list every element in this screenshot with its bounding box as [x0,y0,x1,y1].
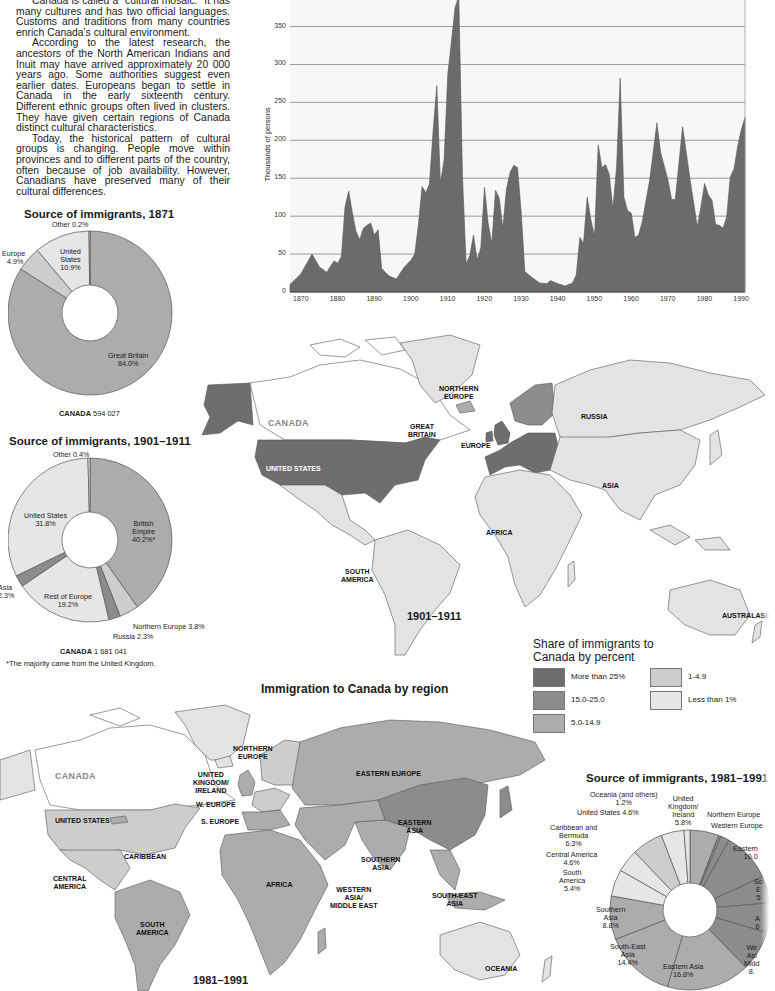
pie-1901-label-rest-of-europe: Rest of Europe 19.2% [44,593,92,609]
map-1981-1991 [0,700,560,991]
map1981-uk-ireland [238,770,255,796]
map1981-label-southern-asia: SOUTHERNASIA [361,856,400,872]
y-tick-label: 0 [282,287,286,294]
map1901-period: 1901–1911 [407,610,461,622]
map1901-australasia [668,580,750,635]
map1901-label-great-britain: GREATBRITAIN [408,423,436,439]
map1981-label-africa: AFRICA [266,881,292,889]
pie-1871-label-other: Other 0.2% [52,221,88,229]
map1981-label-south-america: SOUTHAMERICA [136,921,169,937]
x-tick-label: 1910 [440,295,456,302]
intro-text: Canada is called a "cultural mosaic." It… [16,0,230,197]
y-tick-label: 200 [274,135,286,142]
x-tick-label: 1940 [550,295,566,302]
map1981-label-canada: CANADA [55,771,96,781]
map1901-label-canada: CANADA [268,418,309,428]
pie-1981-label-southern-asia: SouthernAsia8.8% [596,906,625,930]
legend-label: 1-4.9 [688,672,706,681]
x-tick-label: 1920 [476,295,492,302]
map1981-south-east-asia [430,850,460,890]
x-tick-label: 1970 [660,295,676,302]
x-tick-label: 1990 [733,295,749,302]
intro-paragraph-1: Canada is called a "cultural mosaic." It… [16,0,230,38]
legend-label: Less than 1% [688,695,736,704]
pie-1871-label-europe: Europe 4.9% [2,250,25,266]
legend-label: 15.0-25.0 [571,695,605,704]
x-tick-label: 1870 [293,295,309,302]
map1981-label-uk-ireland: UNITEDKINGDOM/IRELAND [193,771,229,795]
y-tick-label: 150 [274,173,286,180]
pie-1981-label-africa: A6 [755,915,760,931]
x-tick-label: 1930 [513,295,529,302]
y-tick-label: 300 [274,59,286,66]
area-chart-svg [250,0,750,310]
pie-1901-label-asia: Asia 2.3% [0,584,14,600]
map-1901-1911 [150,325,775,660]
pie-1901-label-russia: Russia 2.3% [113,633,153,641]
page-edge-fade [761,600,775,991]
map1901-russia [552,360,765,440]
map1981-label-eastern-europe: EASTERN EUROPE [356,770,421,778]
pie-1871-label-gb: Great Britain 84.0% [108,352,148,368]
x-tick-label: 1900 [403,295,419,302]
pie-1981-label-uk: UnitedKingdom/Ireland5.8% [668,795,698,827]
x-tick-label: 1890 [366,295,382,302]
pie-1871-label-us: United States 10.9% [60,248,81,272]
pie-1981-label-eastern-europe: Eastern10.0 [733,845,758,861]
x-tick-label: 1980 [697,295,713,302]
legend-label: More than 25% [571,672,625,681]
map1901-label-northern-europe: NORTHERNEUROPE [439,385,479,401]
intro-paragraph-3: Today, the historical pattern of cultura… [16,134,230,198]
map1981-western-europe [252,788,290,812]
pie-1981-label-caribbean: Caribbean andBermuda6.3% [550,824,597,848]
map1981-label-western-asia: WESTERNASIA/MIDDLE EAST [330,886,377,910]
pie-1981-title: Source of immigrants, 1981–1991 [586,772,768,784]
legend-label: 5.0-14.9 [571,718,600,727]
pie-1981-label-central-america: Central America4.6% [546,851,597,867]
map1901-south-america [372,530,460,655]
pie-1981-label-western-asia: WeAsiMidd8. [744,944,760,976]
map1901-label-africa: AFRICA [486,529,512,537]
map1981-label-northern-europe: NORTHERNEUROPE [233,745,273,761]
map1981-label-south-east-asia: SOUTH-EASTASIA [432,892,478,908]
map1981-label-oceania: OCEANIA [485,965,517,973]
map1981-southern-europe [242,810,290,830]
y-tick-label: 100 [274,211,286,218]
map1981-label-caribbean: CARIBBEAN [124,853,166,861]
map1901-great-britain [494,421,510,445]
legend-swatch [533,668,565,687]
y-tick-label: 50 [278,249,286,256]
y-tick-label: 350 [274,22,286,29]
map1981-label-eastern-asia: EASTERNASIA [398,819,431,835]
y-axis-label: Thousands of persons [263,100,272,190]
y-tick-label: 250 [274,97,286,104]
section-title: Immigration to Canada by region [261,682,448,696]
intro-paragraph-2: According to the latest research, the an… [16,38,230,133]
pie-1901-footnote: *The majority came from the United Kingd… [6,659,156,668]
legend-swatch [650,691,682,710]
pie-1981-label-northern-europe: Northern Europe [707,811,760,819]
map1901-label-russia: RUSSIA [581,413,607,421]
pie-1981-label-eastern-asia: Eastern Asia16.8% [663,963,703,979]
map1901-label-us: UNITED STATES [266,465,321,473]
map1981-label-central-america: CENTRALAMERICA [53,875,86,891]
map1981-period: 1981–1991 [193,974,248,986]
x-tick-label: 1960 [623,295,639,302]
map1981-label-southern-europe: S. EUROPE [201,818,239,826]
legend-swatch [650,668,682,687]
pie-1901-caption: CANADA 1 681 041 [60,647,127,656]
map1901-alaska [202,383,253,435]
immigration-area-chart: 050100150200250300350 187018801890190019… [250,0,750,310]
map1901-label-asia: ASIA [602,482,619,490]
pie-1981-label-south-america: SouthAmerica5.4% [559,869,585,893]
map1901-northern-europe [510,383,555,425]
pie-1871-title: Source of immigrants, 1871 [24,208,174,220]
map1981-label-us: UNITED STATES [55,817,110,825]
pie-1981-label-western-europe: Western Europe [711,822,763,830]
pie-1871-caption: CANADA 594 027 [59,409,120,418]
pie-1981-label-south-east-asia: South-EastAsia14.4% [610,943,646,967]
x-tick-label: 1950 [587,295,603,302]
map1981-africa [220,830,328,975]
map1981-label-western-europe: W. EUROPE [196,801,236,809]
pie-1901-label-other: Other 0.4% [53,451,89,459]
